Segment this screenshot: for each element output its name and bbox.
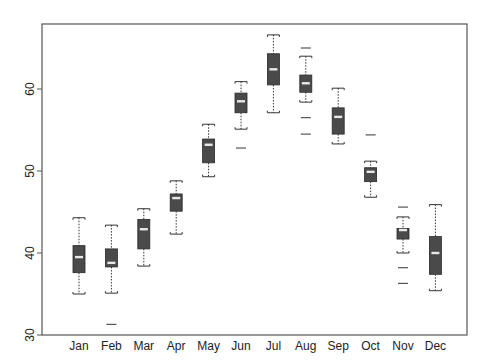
box-dec [429,205,441,291]
lower-cap [73,292,85,294]
box-apr [170,181,182,234]
x-tick-label: Apr [167,339,186,353]
box-sep [332,88,344,144]
iqr-box [235,93,247,113]
iqr-box [170,194,182,211]
iqr-box [429,237,441,275]
iqr-box [73,246,85,273]
x-tick-label: Aug [295,339,316,353]
lower-cap [300,100,312,102]
y-tick-label: 30 [23,328,37,342]
iqr-box [365,168,377,182]
median-line [431,252,439,254]
median-line [205,144,213,146]
box-jun [235,82,247,148]
y-tick-label: 40 [23,246,37,260]
x-tick-label: Feb [101,339,122,353]
x-tick-label: Mar [133,339,154,353]
median-line [140,228,148,230]
median-line [172,197,180,199]
box-nov [397,207,409,283]
median-line [237,100,245,102]
y-tick-label: 60 [23,82,37,96]
x-tick-label: Dec [425,339,446,353]
iqr-box [203,139,215,163]
median-line [107,262,115,264]
box-feb [105,225,117,324]
lower-cap [267,111,279,113]
box-jan [73,218,85,294]
y-axis: 30405060 [23,82,42,342]
median-line [75,256,83,258]
x-tick-label: Jan [69,339,88,353]
median-line [269,68,277,70]
iqr-box [332,108,344,134]
box-plot-chart: 30405060 JanFebMarAprMayJunJulAugSepOctN… [0,0,492,364]
lower-cap [365,195,377,197]
x-tick-label: Oct [361,339,380,353]
x-axis: JanFebMarAprMayJunJulAugSepOctNovDec [69,339,446,353]
x-tick-label: May [197,339,220,353]
y-tick-label: 50 [23,164,37,178]
median-line [334,116,342,118]
boxes-group [73,35,441,324]
plot-frame [42,24,467,335]
lower-cap [332,142,344,144]
median-line [399,229,407,231]
box-aug [300,48,312,134]
iqr-box [105,249,117,267]
median-line [302,82,310,84]
box-mar [138,209,150,266]
x-tick-label: Nov [392,339,413,353]
box-jul [267,35,279,113]
median-line [367,171,375,173]
x-tick-label: Jul [266,339,281,353]
box-may [203,124,215,176]
iqr-box [138,219,150,249]
box-oct [365,135,377,197]
x-tick-label: Sep [328,339,350,353]
x-tick-label: Jun [231,339,250,353]
